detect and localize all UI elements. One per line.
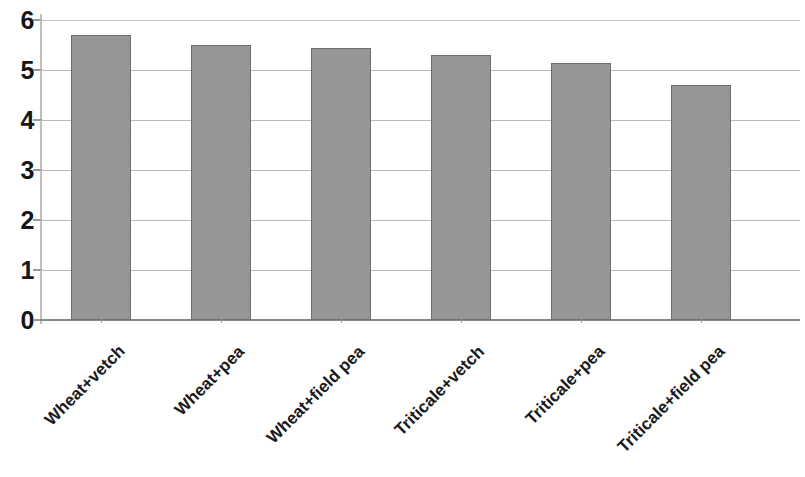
x-tick-label: Triticale+field pea: [614, 342, 729, 457]
x-tick-label: Triticale+vetch: [391, 342, 489, 440]
y-tick-label-4: 4: [4, 108, 34, 133]
x-axis-tick-labels: Wheat+vetchWheat+peaWheat+field peaTriti…: [0, 320, 805, 477]
x-axis-tick-mark: [701, 316, 702, 323]
y-tick-label-2: 2: [4, 208, 34, 233]
bar: [311, 48, 371, 321]
x-axis-tick-mark: [341, 316, 342, 323]
x-axis-tick-mark: [101, 316, 102, 323]
x-axis-tick-mark: [461, 316, 462, 323]
bar: [71, 35, 131, 320]
x-tick-label: Triticale+pea: [522, 342, 609, 429]
bar: [551, 63, 611, 321]
plot-area: [40, 20, 800, 320]
x-axis-tick-mark: [581, 316, 582, 323]
x-tick-label: Wheat+pea: [171, 342, 249, 420]
x-tick-label: Wheat+vetch: [41, 342, 130, 431]
x-tick-label: Wheat+field pea: [263, 342, 369, 448]
y-tick-label-3: 3: [4, 158, 34, 183]
y-tick-label-1: 1: [4, 258, 34, 283]
bar-chart: 6 5 4 3 2 1 0 Wheat+vetchWheat+peaWheat+…: [0, 0, 805, 477]
bar: [671, 85, 731, 320]
x-axis-tick-mark: [221, 316, 222, 323]
bar: [431, 55, 491, 320]
bar: [191, 45, 251, 320]
y-tick-label-6: 6: [4, 8, 34, 33]
y-tick-label-5: 5: [4, 58, 34, 83]
bars-layer: [40, 20, 800, 320]
